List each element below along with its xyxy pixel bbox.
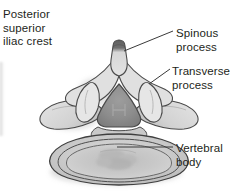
leader-transverse <box>149 69 170 84</box>
iliac-crest-edge <box>0 62 5 136</box>
label-spinous-process: Spinous process <box>176 27 218 54</box>
anatomy-figure: Posterior superior iliac crest Spinous p… <box>0 0 239 191</box>
label-posterior-superior-iliac-crest: Posterior superior iliac crest <box>3 8 52 49</box>
label-transverse-process: Transverse process <box>172 65 230 92</box>
label-vertebral-body: Vertebral body <box>176 142 223 169</box>
vertebral-body <box>50 134 189 185</box>
leader-spinous <box>124 31 173 51</box>
spinous-process <box>111 40 127 76</box>
